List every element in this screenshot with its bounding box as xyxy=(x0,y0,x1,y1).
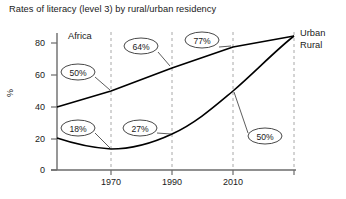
callout-label-rural-1970: 18% xyxy=(61,124,95,134)
callout-label-urban-1970: 50% xyxy=(61,68,95,78)
series-label-rural: Rural xyxy=(300,40,322,50)
region-label-africa: Africa xyxy=(68,31,92,41)
y-tick-label-60: 60 xyxy=(19,70,45,80)
y-axis-unit-label: % xyxy=(5,89,15,97)
x-tick-label-1970: 1970 xyxy=(91,177,131,187)
series-label-urban: Urban xyxy=(300,28,325,38)
x-axis-ticks xyxy=(111,170,294,175)
y-tick-label-0: 0 xyxy=(19,165,45,175)
callout-label-urban-1990: 64% xyxy=(124,42,158,52)
y-tick-label-80: 80 xyxy=(19,38,45,48)
callout-label-urban-2010: 77% xyxy=(185,36,219,46)
x-tick-label-2010: 2010 xyxy=(213,177,253,187)
y-tick-label-20: 20 xyxy=(19,134,45,144)
callout-label-rural-2010: 50% xyxy=(248,132,282,142)
literacy-rates-chart: Rates of literacy (level 3) by rural/urb… xyxy=(0,0,346,199)
chart-plot-area xyxy=(0,0,346,199)
x-tick-label-1990: 1990 xyxy=(152,177,192,187)
y-axis-ticks xyxy=(51,43,57,170)
callout-label-rural-1990: 27% xyxy=(123,124,157,134)
y-tick-label-40: 40 xyxy=(19,102,45,112)
